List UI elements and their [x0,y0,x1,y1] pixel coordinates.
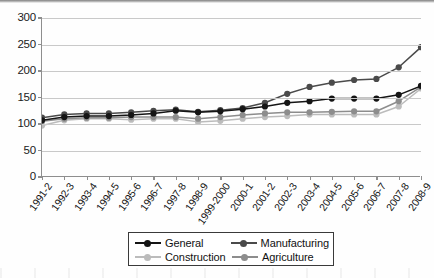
x-tick-mark [287,176,288,180]
legend-row: General Manufacturing [135,236,329,250]
x-tick-mark [176,176,177,180]
data-point [351,108,357,114]
data-point [396,103,402,109]
y-tick-label: 200 [0,64,36,76]
y-tick-label: 300 [0,11,36,23]
gridline [42,45,421,46]
data-point [128,112,134,118]
series-manufacturing [42,44,421,121]
legend-swatch-general [135,238,161,248]
data-point [351,77,357,83]
data-point [373,95,379,101]
gridline [42,98,421,99]
y-tick-mark [38,150,42,151]
legend-row: Construction Agriculture [135,250,329,264]
legend-entry-general[interactable]: General [135,237,231,249]
data-point [150,110,156,116]
x-tick-mark [332,176,333,180]
legend-entry-agriculture[interactable]: Agriculture [232,251,329,263]
data-point [83,113,89,119]
legend-label-general: General [165,237,203,249]
legend-swatch-manufacturing [231,238,257,248]
x-tick-mark [64,176,65,180]
y-tick-label: 0 [0,170,36,182]
legend-label-construction: Construction [165,251,226,263]
series-line [42,47,421,117]
x-tick-mark [376,176,377,180]
y-tick-mark [38,44,42,45]
gridline [42,124,421,125]
data-point [240,112,246,118]
x-tick-mark [198,176,199,180]
x-tick-mark [131,176,132,180]
x-tick-mark [153,176,154,180]
x-tick-mark [243,176,244,180]
data-point [217,114,223,120]
chart-figure: 050100150200250300 1991-21992-31993-4199… [0,0,434,278]
data-point [373,108,379,114]
y-tick-label: 150 [0,91,36,103]
data-point [351,95,357,101]
series-agriculture [42,84,421,125]
data-point [306,109,312,115]
legend-swatch-agriculture [232,252,258,262]
x-tick-mark [354,176,355,180]
data-point [195,109,201,115]
data-point [240,106,246,112]
data-point [329,80,335,86]
gridline [42,18,421,19]
data-point [396,98,402,104]
x-tick-mark [265,176,266,180]
series-line [42,88,421,125]
x-tick-mark [421,176,422,180]
data-point [217,108,223,114]
chart-legend: General Manufacturing Construction Ag [128,232,334,266]
data-point [396,64,402,70]
y-tick-mark [38,97,42,98]
line-chart: 050100150200250300 1991-21992-31993-4199… [0,0,434,232]
data-point [106,113,112,119]
x-tick-mark [109,176,110,180]
data-point [173,114,179,120]
data-point [329,95,335,101]
x-tick-mark [310,176,311,180]
y-tick-label: 100 [0,117,36,129]
data-point [284,100,290,106]
legend-label-manufacturing: Manufacturing [261,237,329,249]
scan-artifact [0,268,434,278]
y-tick-mark [38,123,42,124]
data-point [195,116,201,122]
legend-entry-manufacturing[interactable]: Manufacturing [231,237,329,249]
data-point [262,110,268,116]
y-tick-mark [38,17,42,18]
x-tick-mark [220,176,221,180]
data-point [284,109,290,115]
data-point [329,109,335,115]
data-point [61,114,67,120]
y-tick-label: 50 [0,144,36,156]
legend-swatch-construction [135,252,161,262]
series-construction [42,85,421,128]
x-tick-mark [42,176,43,180]
data-point [306,98,312,104]
gridline [42,71,421,72]
data-point [173,108,179,114]
plot-area [41,18,420,177]
x-tick-mark [399,176,400,180]
data-point [306,84,312,90]
y-tick-mark [38,70,42,71]
data-point [262,103,268,109]
y-tick-label: 250 [0,38,36,50]
data-point [284,91,290,97]
legend-entry-construction[interactable]: Construction [135,251,232,263]
x-tick-mark [87,176,88,180]
gridline [42,151,421,152]
data-point [373,76,379,82]
legend-label-agriculture: Agriculture [262,251,313,263]
